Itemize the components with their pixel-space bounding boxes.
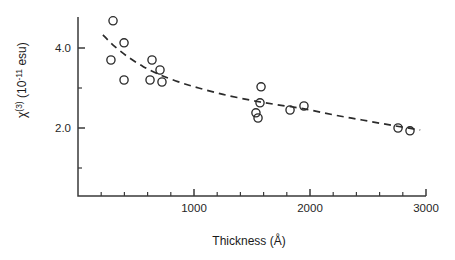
scatter-plot: 100020003000 2.04.0 Thickness (Å) χ(3) (… bbox=[0, 0, 455, 260]
x-axis-major-ticks bbox=[194, 189, 426, 196]
x-axis-tick-labels: 100020003000 bbox=[181, 202, 439, 214]
chart-figure: 100020003000 2.04.0 Thickness (Å) χ(3) (… bbox=[0, 0, 455, 260]
data-point-markers bbox=[107, 17, 414, 135]
y-axis-tick-labels: 2.04.0 bbox=[55, 42, 71, 134]
x-tick-label: 2000 bbox=[297, 202, 323, 214]
y-axis-title: χ(3) (10-11 esu) bbox=[14, 42, 29, 118]
y-axis-units-prefix: (10 bbox=[15, 80, 29, 101]
axis-lines bbox=[78, 17, 426, 196]
x-tick-label: 3000 bbox=[413, 202, 439, 214]
data-point bbox=[158, 78, 166, 86]
data-point bbox=[254, 114, 262, 122]
y-axis-superscript: (3) bbox=[14, 101, 24, 112]
data-point bbox=[120, 39, 128, 47]
x-tick-label: 1000 bbox=[181, 202, 207, 214]
data-point bbox=[394, 124, 402, 132]
data-point bbox=[156, 66, 164, 74]
data-point bbox=[107, 56, 115, 64]
data-point bbox=[252, 109, 260, 117]
data-point bbox=[256, 99, 264, 107]
y-axis-units-exponent: -11 bbox=[14, 69, 24, 81]
svg-text:χ(3) (10-11 esu): χ(3) (10-11 esu) bbox=[14, 42, 29, 118]
y-axis-units-suffix: esu) bbox=[15, 42, 29, 69]
data-point bbox=[109, 17, 117, 25]
data-point bbox=[146, 76, 154, 84]
plot-axes bbox=[78, 17, 426, 196]
data-point bbox=[148, 56, 156, 64]
y-tick-label: 2.0 bbox=[55, 122, 71, 134]
y-tick-label: 4.0 bbox=[55, 42, 71, 54]
x-axis-title: Thickness (Å) bbox=[212, 233, 285, 248]
data-point bbox=[257, 83, 265, 91]
data-point bbox=[120, 76, 128, 84]
